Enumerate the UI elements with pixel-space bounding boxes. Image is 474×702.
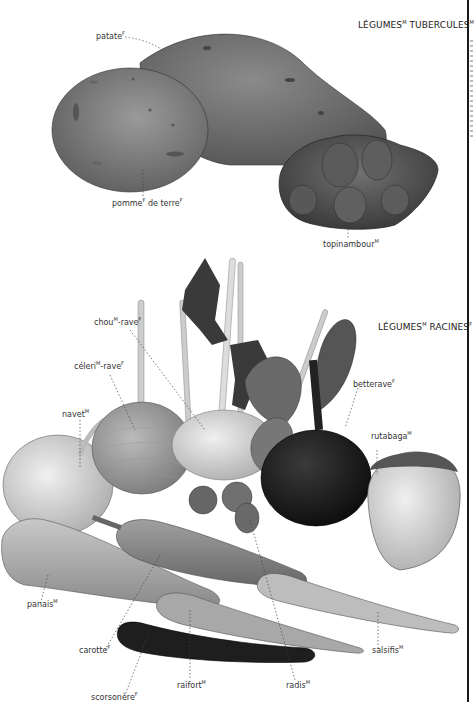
label-pomme-de-terre: pommeF de terreF <box>112 199 183 208</box>
label-patate: patateF <box>96 32 125 41</box>
margin-tick-strip <box>470 40 473 140</box>
label-carotte: carotteF <box>79 646 110 655</box>
section-title-roots: LÉGUMESM RACINESF <box>378 322 472 332</box>
vegetables-illustration <box>0 0 474 702</box>
label-celeri-rave: céleriM-raveF <box>74 362 124 371</box>
label-salsifis: salsifisM <box>372 646 403 655</box>
label-betterave: betteraveF <box>353 380 395 389</box>
page-border-rule <box>467 0 469 702</box>
label-radis: radisM <box>286 681 310 690</box>
label-rutabaga: rutabagaM <box>371 432 412 441</box>
section-title-tubers: LÉGUMESM TUBERCULESM <box>358 20 474 30</box>
label-topinambour: topinambourM <box>323 240 379 249</box>
dictionary-page: LÉGUMESM TUBERCULESM LÉGUMESM RACINESF p… <box>0 0 474 702</box>
label-chou-rave: chouM-raveF <box>94 318 141 327</box>
label-scorsonere: scorsonèreF <box>91 693 138 702</box>
label-raifort: raifortM <box>177 681 206 690</box>
label-panais: panaisM <box>27 600 58 609</box>
label-navet: navetM <box>62 410 89 419</box>
